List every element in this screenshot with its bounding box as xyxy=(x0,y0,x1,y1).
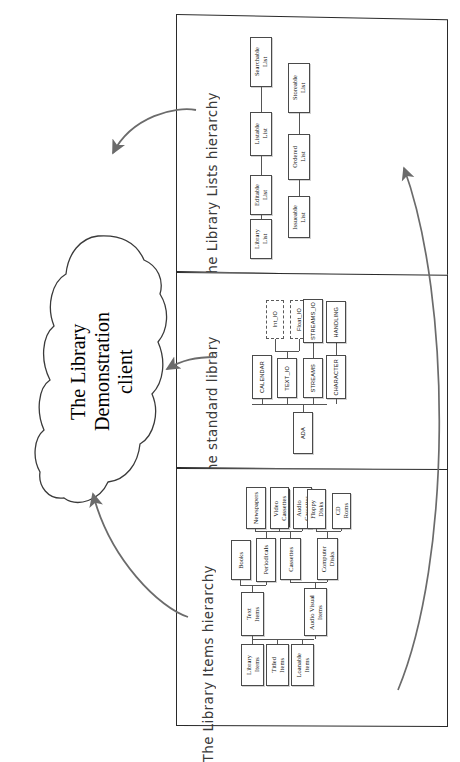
node-int-io[interactable]: Int_IO xyxy=(266,300,284,339)
panel-caption-std: The standard library xyxy=(204,336,220,481)
edge-cassettes xyxy=(290,580,291,582)
edge-intio xyxy=(275,339,276,351)
edge-ada-stem xyxy=(303,404,304,412)
arrow-items-to-client xyxy=(93,494,188,617)
edge-root-loan xyxy=(302,639,303,644)
node-listable-list[interactable]: Listable List xyxy=(250,112,272,156)
node-handling[interactable]: HANDLING xyxy=(326,301,346,343)
edge-txt-bus2 xyxy=(275,351,299,352)
node-storeable-list[interactable]: Storeable List xyxy=(288,63,310,113)
node-cd-roms[interactable]: CD Roms xyxy=(332,493,351,529)
edge-per-stem xyxy=(266,531,267,538)
edge-root-lib xyxy=(252,639,253,644)
edge-ada-bus xyxy=(252,404,327,405)
client-cloud-label: The Library Demonstration client xyxy=(34,232,170,510)
edge-root-titled xyxy=(277,639,278,644)
node-text-items[interactable]: Text Items xyxy=(241,592,264,636)
node-video-cassettes[interactable]: Video Cassettes xyxy=(270,487,289,529)
node-loanable-items[interactable]: Loanable Items xyxy=(291,644,314,686)
edge-text-stem xyxy=(252,585,253,592)
edge-video xyxy=(279,529,280,531)
edge-news xyxy=(255,529,256,531)
node-issueable-list[interactable]: Issueable List xyxy=(288,196,310,238)
edge-txt-bus xyxy=(287,398,288,404)
node-searchable-list[interactable]: Searchable List xyxy=(250,37,272,87)
edge-lib-edit xyxy=(261,215,262,219)
client-cloud[interactable]: The Library Demonstration client xyxy=(34,232,170,510)
edge-chr-bus xyxy=(336,399,337,404)
edge-txt-stem xyxy=(287,351,288,358)
edge-audio xyxy=(302,529,303,531)
edge-issue-ordered xyxy=(299,180,300,196)
edge-ordered-store xyxy=(299,113,300,134)
node-audio-visual-items[interactable]: Audio Visual Items xyxy=(304,588,327,636)
edge-disks xyxy=(327,580,328,582)
node-books[interactable]: Books xyxy=(231,540,251,580)
edge-text-bus xyxy=(252,636,253,639)
edge-av-bus xyxy=(315,636,316,639)
panel-caption-lists: The Library Lists hierarchy xyxy=(204,92,220,282)
node-periodicals[interactable]: Periodicals xyxy=(256,538,276,582)
node-ordered-list[interactable]: Ordered List xyxy=(288,134,310,180)
node-calendar[interactable]: CALENDAR xyxy=(252,355,272,399)
node-library-items[interactable]: Library Items xyxy=(241,644,264,686)
edge-roots-bus xyxy=(252,639,314,640)
edge-periodicals xyxy=(266,582,267,585)
node-ada[interactable]: ADA xyxy=(293,412,313,454)
edge-floatio xyxy=(299,339,300,351)
edge-text-bus2 xyxy=(240,585,266,586)
node-character[interactable]: CHARACTER xyxy=(326,355,346,399)
edge-streams-io xyxy=(313,343,314,358)
edge-per-bus xyxy=(255,531,279,532)
edge-floppy xyxy=(316,529,317,531)
edge-cas-stem xyxy=(290,531,291,538)
node-library-list[interactable]: Library List xyxy=(250,219,272,259)
edge-cdroms xyxy=(341,529,342,531)
node-titled-items[interactable]: Titled Items xyxy=(266,644,289,686)
node-streams[interactable]: STREAMS xyxy=(303,358,323,398)
node-floppy-disks[interactable]: Floppy Disks xyxy=(307,489,326,529)
edge-cas-bus xyxy=(279,531,302,532)
edge-av-bus2 xyxy=(290,582,327,583)
edge-books xyxy=(240,580,241,585)
edge-str-bus xyxy=(313,398,314,404)
edge-cal-bus xyxy=(262,399,263,404)
node-cassettes[interactable]: Cassettes xyxy=(280,538,301,580)
node-text-io[interactable]: TEXT_IO xyxy=(277,358,297,398)
node-computer-disks[interactable]: Computer Disks xyxy=(317,538,338,580)
panel-caption-items: The Library Items hierarchy xyxy=(200,565,216,762)
edge-listable-search xyxy=(261,87,262,112)
edge-edit-listable xyxy=(261,156,262,175)
node-streams-io[interactable]: STREAMS_IO xyxy=(303,299,323,343)
node-editable-list[interactable]: Editable List xyxy=(250,175,272,215)
edge-handling xyxy=(336,343,337,355)
node-newspapers[interactable]: Newspapers xyxy=(246,487,266,529)
edge-disk-bus xyxy=(316,531,341,532)
edge-disk-stem xyxy=(327,531,328,538)
